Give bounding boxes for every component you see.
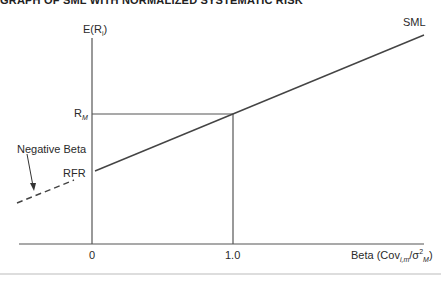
x-axis-label-sub: i,m bbox=[400, 256, 409, 263]
negative-beta-dashed-line bbox=[17, 180, 74, 203]
tick-label-zero: 0 bbox=[89, 250, 95, 261]
x-axis-label-sup: 2 bbox=[419, 248, 423, 255]
x-axis-label-main: Beta (Cov bbox=[351, 249, 400, 261]
sml-line bbox=[95, 35, 424, 171]
negative-beta-arrow-shaft bbox=[27, 154, 33, 186]
rm-label: RM bbox=[74, 108, 88, 119]
rfr-label: RFR bbox=[63, 168, 86, 179]
y-axis-label: E(Ri) bbox=[83, 24, 107, 35]
negative-beta-label: Negative Beta bbox=[17, 144, 86, 155]
sml-label: SML bbox=[403, 17, 426, 28]
y-axis-label-close: ) bbox=[104, 23, 108, 35]
sml-diagram: GRAPH OF SML WITH NORMALIZED SYSTEMATIC … bbox=[0, 0, 441, 281]
tick-label-one: 1.0 bbox=[225, 250, 240, 261]
x-axis-label: Beta (Covi,m/σ2M) bbox=[351, 250, 433, 261]
x-axis-label-sigma: /σ bbox=[409, 249, 419, 261]
rm-label-main: R bbox=[74, 107, 82, 119]
diagram-canvas bbox=[0, 0, 441, 281]
x-axis-label-close: ) bbox=[429, 249, 433, 261]
rm-label-sub: M bbox=[82, 114, 88, 121]
negative-beta-arrow-head bbox=[30, 183, 36, 191]
y-axis-label-main: E(R bbox=[83, 23, 102, 35]
